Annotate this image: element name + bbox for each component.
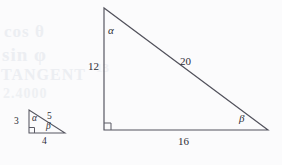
large-triangle-hypotenuse-label: 20 [180, 56, 191, 67]
small-triangle-beta-label: β [46, 122, 51, 132]
large-triangle-alpha-label: α [108, 25, 114, 36]
large-triangle-beta-label: β [239, 113, 244, 124]
small-triangle-vertical-leg-label: 3 [14, 117, 19, 127]
large-triangle-vertical-leg-label: 12 [88, 61, 99, 72]
small-triangle-horizontal-leg-label: 4 [42, 137, 47, 147]
small-triangle-alpha-label: α [32, 114, 37, 124]
large-triangle-horizontal-leg-label: 16 [178, 136, 189, 147]
similar-triangles-figure: cos θ sin φ TANGENT 2.4000 13 3 α 5 β 4 … [0, 0, 282, 165]
